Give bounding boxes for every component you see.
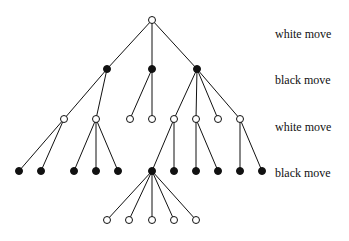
white-node (126, 217, 133, 224)
black-node (215, 168, 222, 175)
white-node (237, 116, 244, 123)
level-label-white-move-2: white move (275, 121, 331, 133)
tree-edge (196, 69, 197, 119)
tree-edge (64, 69, 107, 119)
black-node (16, 168, 23, 175)
white-node (171, 116, 178, 123)
black-node (237, 168, 244, 175)
black-node (38, 168, 45, 175)
tree-edge (107, 20, 152, 69)
black-node (71, 168, 78, 175)
white-node (104, 217, 111, 224)
tree-nodes (16, 17, 266, 224)
tree-edge (174, 69, 197, 119)
tree-edge (130, 69, 152, 119)
tree-edge (152, 20, 197, 69)
white-node (193, 217, 200, 224)
white-node (127, 116, 134, 123)
white-node (93, 116, 100, 123)
tree-edge (152, 119, 174, 171)
level-label-black-move-1: black move (275, 74, 331, 86)
black-node (93, 168, 100, 175)
tree-edge (19, 119, 64, 171)
black-node (259, 168, 266, 175)
black-node (115, 168, 122, 175)
tree-edge (197, 69, 240, 119)
white-node (149, 217, 156, 224)
white-node (149, 17, 156, 24)
tree-edge (129, 171, 152, 220)
tree-edge (152, 171, 174, 220)
white-node (193, 116, 200, 123)
tree-edge (107, 171, 152, 220)
black-node (149, 168, 156, 175)
tree-edge (96, 119, 118, 171)
black-node (193, 168, 200, 175)
tree-edge (96, 69, 107, 119)
tree-edge (197, 69, 218, 119)
white-node (171, 217, 178, 224)
tree-edges (19, 20, 262, 220)
tree-edge (74, 119, 96, 171)
white-node (61, 116, 68, 123)
level-label-black-move-2: black move (275, 167, 331, 179)
level-label-white-move-1: white move (275, 28, 331, 40)
black-node (171, 168, 178, 175)
black-node (149, 66, 156, 73)
tree-edge (196, 119, 218, 171)
black-node (104, 66, 111, 73)
white-node (215, 116, 222, 123)
black-node (194, 66, 201, 73)
tree-edge (41, 119, 64, 171)
tree-edge (152, 171, 196, 220)
white-node (149, 116, 156, 123)
tree-edge (240, 119, 262, 171)
